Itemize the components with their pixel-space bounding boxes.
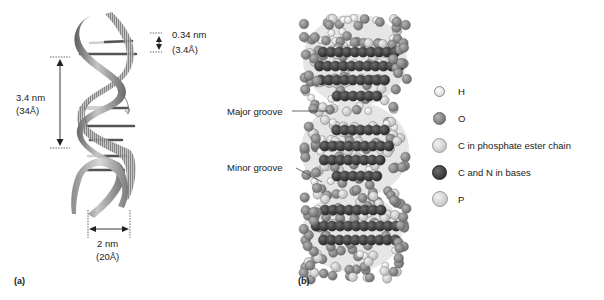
base-atom-icon xyxy=(432,165,447,180)
legend-item-h: H xyxy=(432,86,465,97)
phosphorus-atom-icon xyxy=(432,191,448,207)
legend-item-p: P xyxy=(432,191,464,207)
panel-b-label: (b) xyxy=(298,276,310,286)
major-groove-label: Major groove xyxy=(227,106,282,117)
hydrogen-atom-icon xyxy=(434,86,445,97)
oxygen-atom-icon xyxy=(433,112,446,125)
legend-item-o: O xyxy=(432,112,465,125)
legend-item-c-phosphate: C in phosphate ester chain xyxy=(432,138,571,153)
minor-groove-label: Minor groove xyxy=(227,162,282,173)
legend-item-c-n-bases: C and N in bases xyxy=(432,165,531,180)
carbon-backbone-atom-icon xyxy=(432,138,447,153)
